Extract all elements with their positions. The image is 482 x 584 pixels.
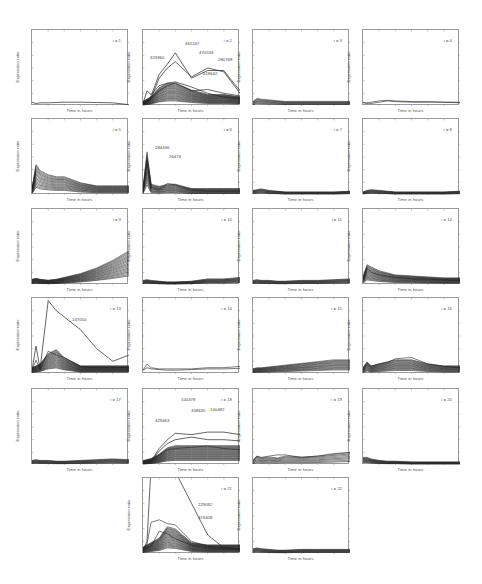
cluster-label: i = 3 (334, 38, 342, 43)
cluster-label: i = 19 (331, 397, 342, 402)
plot-area: i = 22 (252, 477, 349, 553)
x-axis-label: Time in hours (31, 376, 128, 381)
y-axis-label: Expression ratio (15, 52, 20, 83)
plot-area: i = 5 (31, 118, 128, 194)
plot-area: i = 3 (252, 29, 349, 105)
cluster-panel: i = 19 Expression ratio Time in hours (252, 388, 349, 464)
cluster-label: i = 6 (224, 127, 232, 132)
x-axis-label: Time in hours (362, 287, 459, 292)
cluster-panel: i = 4 Expression ratio Time in hours (362, 29, 459, 105)
x-axis-label: Time in hours (252, 197, 349, 202)
y-axis-label: Expression ratio (15, 320, 20, 351)
cluster-label: i = 11 (332, 217, 342, 222)
y-axis-label: Expression ratio (346, 52, 351, 83)
y-axis-label: Expression ratio (236, 52, 241, 83)
cluster-label: i = 9 (113, 217, 121, 222)
gene-annotation: 618642 (203, 71, 217, 76)
plot-area: i = 19 (252, 388, 349, 464)
cluster-label: i = 14 (221, 306, 232, 311)
x-axis-label: Time in hours (142, 467, 239, 472)
cluster-label: i = 20 (441, 397, 452, 402)
cluster-panel: i = 12 Expression ratio Time in hours (362, 208, 459, 284)
plot-area: i = 11 (252, 208, 349, 284)
plot-area: i = 16 (362, 297, 459, 373)
cluster-label: i = 10 (221, 217, 232, 222)
cluster-label: i = 16 (441, 306, 452, 311)
y-axis-label: Expression ratio (126, 52, 131, 83)
cluster-label: i = 13 (110, 306, 121, 311)
cluster-panel: i = 17 Expression ratio Time in hours (31, 388, 128, 464)
x-axis-label: Time in hours (252, 376, 349, 381)
x-axis-label: Time in hours (142, 197, 239, 202)
y-axis-label: Expression ratio (236, 231, 241, 262)
y-axis-label: Expression ratio (346, 141, 351, 172)
cluster-panel: i = 3 Expression ratio Time in hours (252, 29, 349, 105)
y-axis-label: Expression ratio (126, 231, 131, 262)
cluster-label: i = 18 (221, 397, 232, 402)
gene-annotation: 147050 (72, 317, 86, 322)
y-axis-label: Expression ratio (15, 231, 20, 262)
cluster-label: i = 12 (441, 217, 452, 222)
cluster-panel: i = 5 Expression ratio Time in hours (31, 118, 128, 194)
cluster-panel: i = 9 Expression ratio Time in hours (31, 208, 128, 284)
gene-annotation: 280768 (218, 57, 232, 62)
gene-annotation: 229092 (198, 502, 212, 507)
x-axis-label: Time in hours (31, 197, 128, 202)
x-axis-label: Time in hours (142, 287, 239, 292)
gene-annotation: 100482 (210, 407, 224, 412)
cluster-panel: i = 6 28443626474 Expression ratio Time … (142, 118, 239, 194)
x-axis-label: Time in hours (362, 108, 459, 113)
plot-area: i = 14 (142, 297, 239, 373)
cluster-panel: i = 8 Expression ratio Time in hours (362, 118, 459, 194)
y-axis-label: Expression ratio (236, 320, 241, 351)
plot-area: i = 6 28443626474 (142, 118, 239, 194)
x-axis-label: Time in hours (252, 108, 349, 113)
gene-annotation: 284436 (155, 145, 169, 150)
x-axis-label: Time in hours (252, 556, 349, 561)
plot-area: i = 7 (252, 118, 349, 194)
cluster-panel: i = 15 Expression ratio Time in hours (252, 297, 349, 373)
y-axis-label: Expression ratio (346, 231, 351, 262)
gene-annotation: 358635 (191, 408, 205, 413)
y-axis-label: Expression ratio (15, 141, 20, 172)
gene-annotation: 361247 (185, 41, 199, 46)
x-axis-label: Time in hours (252, 467, 349, 472)
cluster-label: i = 4 (444, 38, 452, 43)
plot-area: i = 1 (31, 29, 128, 105)
cluster-label: i = 21 (221, 486, 232, 491)
gene-annotation: 429463 (155, 418, 169, 423)
cluster-label: i = 8 (444, 127, 452, 132)
cluster-panel: i = 10 Expression ratio Time in hours (142, 208, 239, 284)
y-axis-label: Expression ratio (126, 500, 131, 531)
plot-area: i = 20 (362, 388, 459, 464)
cluster-label: i = 7 (334, 127, 342, 132)
cluster-label: i = 15 (331, 306, 342, 311)
cluster-panel: i = 14 Expression ratio Time in hours (142, 297, 239, 373)
cluster-label: i = 22 (331, 486, 342, 491)
plot-area: i = 21 229092313408 (142, 477, 239, 553)
plot-area: i = 18 429463100478358635100482 (142, 388, 239, 464)
plot-area: i = 9 (31, 208, 128, 284)
cluster-panel: i = 13 147050 Expression ratio Time in h… (31, 297, 128, 373)
plot-area: i = 12 (362, 208, 459, 284)
x-axis-label: Time in hours (142, 108, 239, 113)
x-axis-label: Time in hours (31, 467, 128, 472)
x-axis-label: Time in hours (362, 197, 459, 202)
y-axis-label: Expression ratio (236, 141, 241, 172)
y-axis-label: Expression ratio (346, 411, 351, 442)
x-axis-label: Time in hours (31, 108, 128, 113)
cluster-panel: i = 20 Expression ratio Time in hours (362, 388, 459, 464)
cluster-label: i = 5 (113, 127, 121, 132)
x-axis-label: Time in hours (31, 287, 128, 292)
y-axis-label: Expression ratio (236, 500, 241, 531)
cluster-panel: i = 18 429463100478358635100482 Expressi… (142, 388, 239, 464)
cluster-panel: i = 11 Expression ratio Time in hours (252, 208, 349, 284)
cluster-panel: i = 16 Expression ratio Time in hours (362, 297, 459, 373)
cluster-label: i = 2 (224, 38, 232, 43)
x-axis-label: Time in hours (362, 467, 459, 472)
y-axis-label: Expression ratio (126, 141, 131, 172)
y-axis-label: Expression ratio (236, 411, 241, 442)
plot-area: i = 17 (31, 388, 128, 464)
x-axis-label: Time in hours (142, 376, 239, 381)
y-axis-label: Expression ratio (15, 411, 20, 442)
